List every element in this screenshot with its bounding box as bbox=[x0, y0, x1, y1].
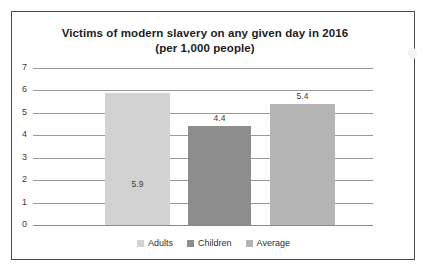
legend-swatch-icon-average bbox=[246, 240, 253, 247]
y-tick-label-2: 2 bbox=[7, 174, 27, 184]
chart-title-line-2: (per 1,000 people) bbox=[30, 41, 380, 56]
y-tick-label-5: 5 bbox=[7, 107, 27, 117]
bar-value-label-children: 4.4 bbox=[185, 113, 255, 123]
scan-smudge bbox=[408, 48, 417, 59]
y-tick-label-0: 0 bbox=[7, 219, 27, 229]
legend-item-average: Average bbox=[246, 238, 290, 248]
legend-label-average: Average bbox=[257, 238, 290, 248]
legend-label-adults: Adults bbox=[148, 238, 173, 248]
bar-average bbox=[270, 104, 335, 225]
bar-adults bbox=[105, 93, 170, 225]
gridline-7 bbox=[33, 68, 373, 69]
bar-value-label-average: 5.4 bbox=[268, 91, 338, 101]
y-tick-label-1: 1 bbox=[7, 197, 27, 207]
legend-item-adults: Adults bbox=[137, 238, 173, 248]
legend-swatch-icon-children bbox=[187, 240, 194, 247]
y-tick-label-7: 7 bbox=[7, 62, 27, 72]
plot-area: 7 6 5 4 3 2 1 0 5.9 4.4 5.4 bbox=[33, 68, 373, 225]
legend-swatch-icon-adults bbox=[137, 240, 144, 247]
chart-legend: Adults Children Average bbox=[0, 238, 427, 248]
bar-children bbox=[188, 126, 251, 225]
legend-label-children: Children bbox=[198, 238, 232, 248]
legend-item-children: Children bbox=[187, 238, 232, 248]
y-tick-label-6: 6 bbox=[7, 84, 27, 94]
y-tick-label-3: 3 bbox=[7, 152, 27, 162]
chart-page: Victims of modern slavery on any given d… bbox=[0, 0, 427, 273]
chart-title: Victims of modern slavery on any given d… bbox=[30, 26, 380, 56]
bar-value-label-adults: 5.9 bbox=[103, 179, 173, 189]
gridline-0 bbox=[33, 225, 373, 226]
chart-title-line-1: Victims of modern slavery on any given d… bbox=[30, 26, 380, 41]
y-tick-label-4: 4 bbox=[7, 129, 27, 139]
